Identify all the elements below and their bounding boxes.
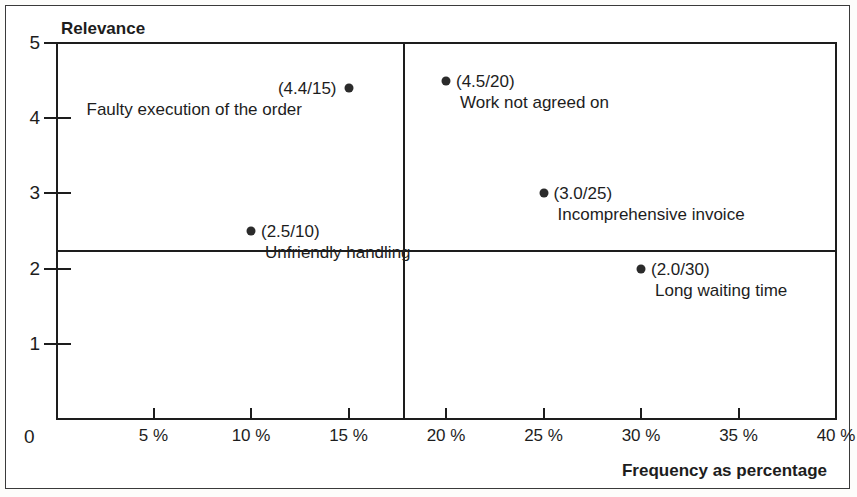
y-tick-mark [44, 42, 56, 44]
data-point-marker[interactable] [247, 227, 256, 236]
x-tick-mark [445, 408, 447, 419]
y-tick-label: 4 [22, 108, 40, 127]
y-tick-label: 5 [22, 33, 40, 52]
x-tick-label: 25 % [524, 427, 563, 444]
x-axis-title: Frequency as percentage [622, 462, 827, 479]
y-tick-mark-inner [58, 117, 71, 119]
x-tick-mark [348, 408, 350, 419]
data-point-name-label: Work not agreed on [460, 94, 609, 111]
x-tick-mark [738, 408, 740, 419]
x-tick-mark [250, 408, 252, 419]
x-tick-mark [153, 408, 155, 419]
x-tick-label: 40 % [817, 427, 856, 444]
data-point-name-label: Long waiting time [655, 282, 787, 299]
data-point-value-label: (2.0/30) [651, 261, 710, 278]
data-point-marker[interactable] [637, 264, 646, 273]
y-tick-mark [44, 117, 56, 119]
data-point-name-label: Unfriendly handling [265, 244, 411, 261]
quadrant-divider-vertical [403, 42, 405, 420]
data-point-name-label: Faulty execution of the order [87, 101, 302, 118]
x-tick-mark [543, 408, 545, 419]
data-point-value-label: (3.0/25) [554, 185, 613, 202]
x-tick-label: 10 % [232, 427, 271, 444]
y-axis-line [56, 42, 58, 420]
origin-label: 0 [24, 427, 35, 446]
figure-frame: Relevance Frequency as percentage 0 1234… [5, 5, 850, 489]
x-tick-label: 15 % [329, 427, 368, 444]
data-point-marker[interactable] [344, 84, 353, 93]
data-point-value-label: (4.5/20) [456, 73, 515, 90]
x-tick-label: 30 % [622, 427, 661, 444]
y-tick-label: 1 [22, 334, 40, 353]
plot-top-border [56, 42, 837, 44]
y-axis-title: Relevance [61, 20, 145, 37]
chart-figure: Relevance Frequency as percentage 0 1234… [0, 0, 857, 497]
x-tick-mark [640, 408, 642, 419]
data-point-value-label: (4.4/15) [278, 80, 337, 97]
y-tick-mark-inner [58, 268, 71, 270]
x-tick-label: 35 % [719, 427, 758, 444]
quadrant-divider-horizontal [56, 250, 837, 252]
y-tick-mark-inner [58, 192, 71, 194]
y-tick-mark-inner [58, 343, 71, 345]
x-tick-label: 5 % [139, 427, 168, 444]
data-point-marker[interactable] [442, 76, 451, 85]
y-tick-label: 3 [22, 183, 40, 202]
y-tick-label: 2 [22, 259, 40, 278]
y-tick-mark [44, 343, 56, 345]
y-tick-mark [44, 268, 56, 270]
data-point-value-label: (2.5/10) [261, 223, 320, 240]
y-tick-mark [44, 192, 56, 194]
x-tick-label: 20 % [427, 427, 466, 444]
data-point-name-label: Incomprehensive invoice [558, 206, 745, 223]
data-point-marker[interactable] [539, 189, 548, 198]
plot-right-border [835, 42, 837, 420]
